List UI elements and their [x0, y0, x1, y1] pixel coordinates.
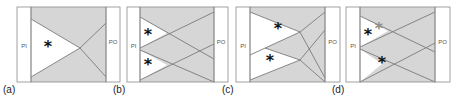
asterisk-icon: *	[274, 19, 283, 38]
asterisk-icon: *	[44, 37, 53, 56]
panel-b: PIPO**(b)	[113, 7, 228, 95]
po-strip	[435, 7, 450, 82]
panel-d: PIPO***(d)	[332, 7, 450, 95]
asterisk-icon: *	[144, 55, 153, 74]
panel-a: PIPO*(a)	[3, 7, 120, 95]
panel-caption: (a)	[3, 84, 15, 95]
pi-label: PI	[350, 43, 356, 49]
asterisk-icon: *	[144, 25, 153, 44]
asterisk-icon: *	[378, 53, 387, 72]
panel-c: PIPO**(c)	[222, 7, 340, 95]
pi-label: PI	[21, 43, 27, 49]
pi-label: PI	[240, 43, 246, 49]
figure-canvas: PIPO*(a)PIPO**(b)PIPO**(c)PIPO***(d)	[0, 0, 465, 100]
po-label: PO	[217, 39, 226, 45]
po-strip	[325, 7, 340, 82]
asterisk-icon: *	[375, 19, 384, 38]
panel-caption: (c)	[222, 84, 234, 95]
po-strip	[106, 7, 120, 82]
po-label: PO	[109, 39, 118, 45]
pi-label: PI	[131, 43, 137, 49]
panel-caption: (b)	[113, 84, 125, 95]
po-label: PO	[438, 39, 447, 45]
asterisk-icon: *	[364, 25, 373, 44]
po-strip	[214, 7, 228, 82]
asterisk-icon: *	[266, 51, 275, 70]
po-label: PO	[328, 39, 337, 45]
panel-caption: (d)	[332, 84, 344, 95]
